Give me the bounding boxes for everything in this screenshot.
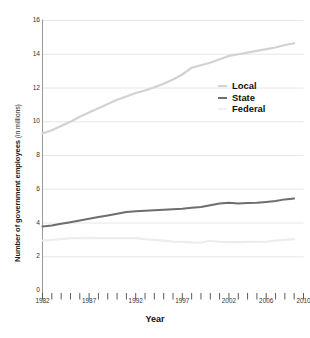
- line-chart-figure: Number of government employees (in milli…: [0, 0, 310, 338]
- x-axis-tick-label: 1987: [82, 297, 96, 304]
- legend-swatch-local: [218, 85, 227, 87]
- series-line-state: [43, 199, 295, 227]
- x-axis-tick-label: 2010: [296, 297, 310, 304]
- x-axis-tick-label: 1982: [35, 297, 49, 304]
- x-axis-tick-label: 1992: [129, 297, 143, 304]
- legend-label: Local: [232, 80, 257, 92]
- legend-item-state: State: [218, 92, 304, 104]
- series-line-federal: [43, 238, 295, 243]
- legend-label: Federal: [232, 103, 265, 115]
- legend-swatch-federal: [218, 108, 227, 110]
- x-axis-tick-labels: 1982198719921997200220062010: [0, 297, 310, 309]
- plot-area: [0, 0, 310, 338]
- legend-label: State: [232, 92, 255, 104]
- x-axis-title: Year: [0, 314, 310, 324]
- legend-item-federal: Federal: [218, 103, 304, 115]
- x-axis-tick-label: 1997: [175, 297, 189, 304]
- chart-legend: LocalStateFederal: [218, 80, 304, 115]
- legend-item-local: Local: [218, 80, 304, 92]
- x-axis-tick-label: 2006: [259, 297, 273, 304]
- legend-swatch-state: [218, 97, 227, 99]
- x-axis-tick-label: 2002: [222, 297, 236, 304]
